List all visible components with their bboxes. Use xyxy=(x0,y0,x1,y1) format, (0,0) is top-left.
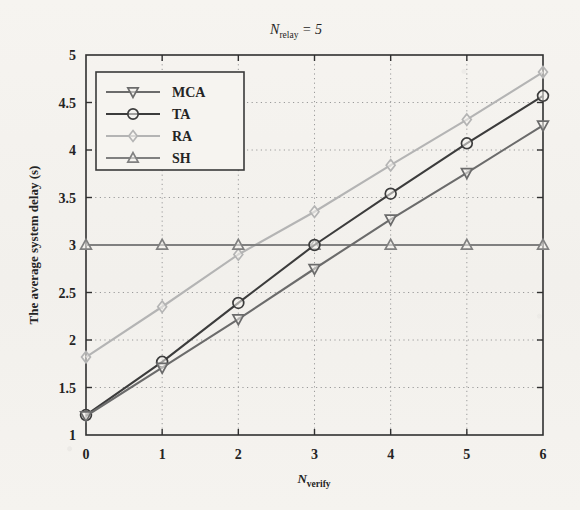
y-tick-label: 2.5 xyxy=(59,286,77,301)
data-point-marker xyxy=(538,90,549,101)
data-point-marker xyxy=(385,215,396,225)
chart-title: Nrelay = 5 xyxy=(269,22,322,40)
legend-item-label: TA xyxy=(172,107,191,122)
data-point-marker xyxy=(309,265,320,275)
data-point-marker xyxy=(128,109,138,119)
data-point-marker xyxy=(461,138,472,149)
data-point-marker xyxy=(234,249,243,260)
data-point-marker xyxy=(461,169,472,179)
y-tick-label: 5 xyxy=(69,48,76,63)
legend-item-label: SH xyxy=(172,151,191,166)
y-tick-label: 1 xyxy=(69,428,76,443)
y-tick-label: 3 xyxy=(69,238,76,253)
data-point-marker xyxy=(233,298,244,309)
y-tick-label: 3.5 xyxy=(59,191,77,206)
x-tick-label: 1 xyxy=(159,447,166,462)
data-point-marker xyxy=(309,240,320,251)
x-tick-label: 5 xyxy=(463,447,470,462)
chart-figure: Nrelay = 5 The average system delay (s) … xyxy=(0,0,580,510)
legend-box xyxy=(96,72,244,170)
chart-svg: Nrelay = 5 The average system delay (s) … xyxy=(0,0,580,510)
y-tick-label: 4.5 xyxy=(59,96,77,111)
data-point-marker xyxy=(233,315,244,325)
legend-item-label: MCA xyxy=(172,85,206,100)
legend-item-label: RA xyxy=(172,129,193,144)
data-point-marker xyxy=(310,206,319,217)
y-tick-label: 1.5 xyxy=(59,381,77,396)
data-point-marker xyxy=(158,301,167,312)
data-point-marker xyxy=(157,363,168,373)
data-point-marker xyxy=(385,188,396,199)
data-point-marker xyxy=(462,114,471,125)
x-tick-label: 3 xyxy=(311,447,318,462)
data-point-marker xyxy=(539,66,548,77)
x-tick-label: 2 xyxy=(235,447,242,462)
data-point-marker xyxy=(386,160,395,171)
legend[interactable]: MCATARASH xyxy=(96,72,244,170)
data-point-marker xyxy=(82,351,91,362)
data-point-marker xyxy=(538,121,549,131)
x-tick-label: 6 xyxy=(540,447,547,462)
x-tick-label: 0 xyxy=(83,447,90,462)
y-tick-label: 4 xyxy=(69,143,76,158)
x-axis-title: Nverify xyxy=(296,471,330,489)
y-axis-title: The average system delay (s) xyxy=(26,166,41,325)
x-tick-label: 4 xyxy=(387,447,394,462)
y-tick-label: 2 xyxy=(69,333,76,348)
